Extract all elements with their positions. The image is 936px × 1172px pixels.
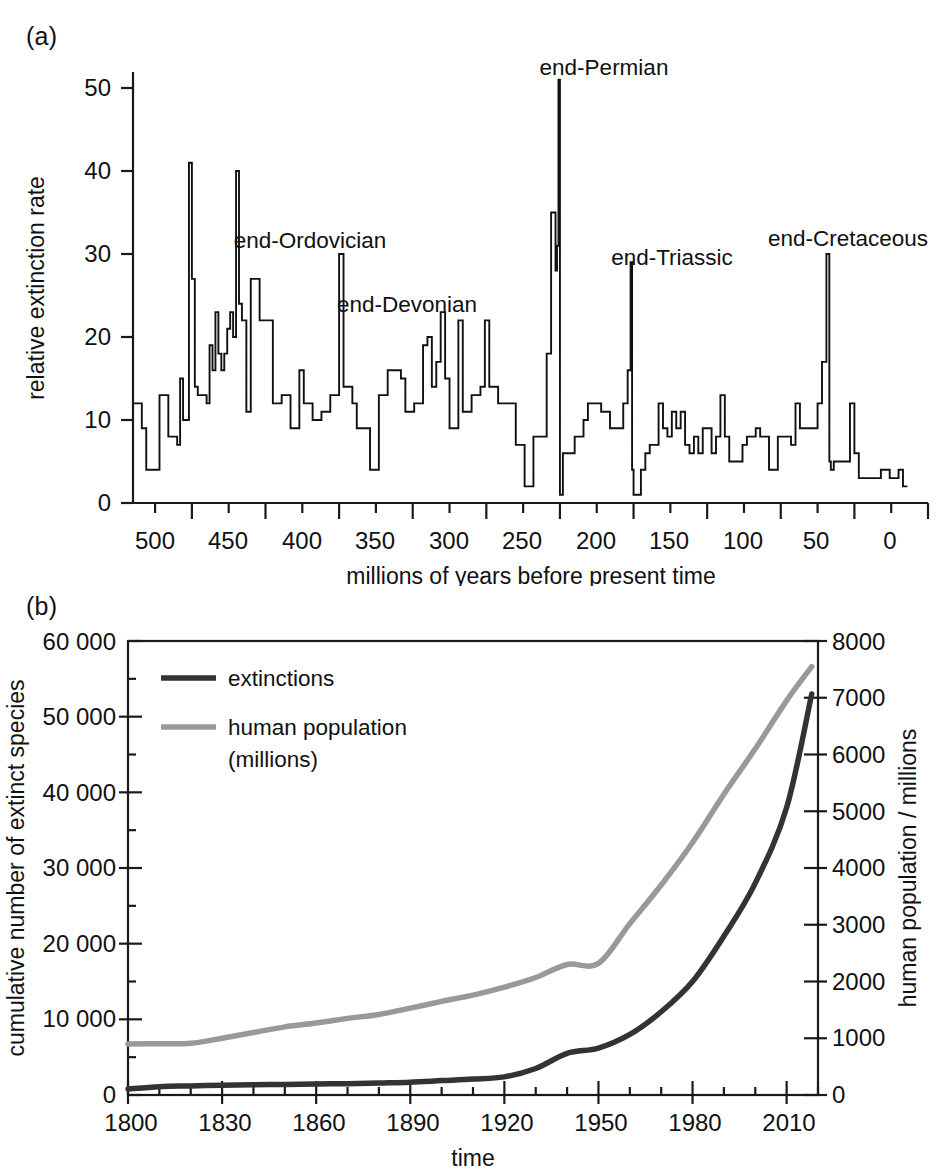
y-tick-label-left: 20 000 [43, 930, 116, 957]
y-tick-label-right: 4000 [832, 854, 885, 881]
panel-b-x-tick-labels: 1800 1830 1860 1890 1920 1950 1980 2010 [104, 1109, 815, 1136]
panel-b-y-axis-title-right: human population / millions [895, 729, 921, 1008]
panel-a-chart: 0 10 20 30 40 50 500 450 400 350 300 250… [0, 0, 936, 586]
panel-b-chart: 0 10 000 20 000 30 000 40 000 50 000 60 … [0, 586, 936, 1172]
y-tick-label: 10 [84, 406, 111, 433]
x-tick-label: 50 [803, 527, 830, 554]
y-tick-label: 30 [84, 240, 111, 267]
panel-b-left-y-ticks [119, 641, 142, 1095]
panel-a-axes [133, 72, 928, 503]
x-tick-label: 250 [502, 527, 542, 554]
x-tick-label: 200 [576, 527, 616, 554]
x-tick-label: 150 [649, 527, 689, 554]
y-tick-label: 20 [84, 323, 111, 350]
x-tick-label: 2010 [762, 1109, 815, 1136]
x-tick-label: 300 [429, 527, 469, 554]
y-tick-label: 0 [98, 489, 111, 516]
panel-b-right-y-tick-labels: 0 1000 2000 3000 4000 5000 6000 7000 800… [832, 628, 885, 1108]
x-tick-label: 350 [355, 527, 395, 554]
x-tick-label: 1860 [292, 1109, 345, 1136]
x-tick-label: 1920 [480, 1109, 533, 1136]
panel-b-y-axis-title-left: cumulative number of extinct species [3, 679, 29, 1056]
y-tick-label-right: 7000 [832, 684, 885, 711]
x-tick-label: 500 [135, 527, 175, 554]
y-tick-label-right: 1000 [832, 1024, 885, 1051]
y-tick-label-right: 8000 [832, 628, 885, 655]
y-tick-label-right: 6000 [832, 741, 885, 768]
x-tick-label: 1800 [104, 1109, 157, 1136]
panel-b-x-axis-title: time [451, 1145, 494, 1171]
x-tick-label: 1980 [668, 1109, 721, 1136]
x-tick-label: 1950 [574, 1109, 627, 1136]
y-tick-label-left: 40 000 [43, 779, 116, 806]
extinction-rate-curve [133, 80, 907, 495]
x-tick-label: 400 [282, 527, 322, 554]
panel-a-y-tick-labels: 0 10 20 30 40 50 [84, 74, 111, 516]
event-label-end-devonian: end-Devonian [337, 292, 477, 317]
y-tick-label: 40 [84, 157, 111, 184]
legend-label-human-population: human population [228, 715, 407, 740]
panel-a-x-tick-labels: 500 450 400 350 300 250 200 150 100 50 0 [135, 527, 897, 554]
y-tick-label-left: 10 000 [43, 1005, 116, 1032]
x-tick-label: 1890 [386, 1109, 439, 1136]
extinction-figure: (a) 0 10 20 30 40 50 500 450 40 [0, 0, 936, 1172]
event-label-end-ordovician: end-Ordovician [234, 228, 387, 253]
legend-label-human-population-units: (millions) [228, 747, 318, 772]
y-tick-label-right: 0 [832, 1081, 845, 1108]
panel-a-y-axis-title: relative extinction rate [23, 176, 49, 400]
event-label-end-permian: end-Permian [540, 55, 669, 80]
y-tick-label-left: 60 000 [43, 628, 116, 655]
x-tick-label: 450 [208, 527, 248, 554]
y-tick-label-right: 3000 [832, 911, 885, 938]
y-tick-label-left: 50 000 [43, 703, 116, 730]
panel-b-legend: extinctions human population (millions) [161, 666, 407, 772]
legend-label-extinctions: extinctions [228, 666, 334, 691]
x-tick-label: 1830 [198, 1109, 251, 1136]
x-tick-label: 100 [723, 527, 763, 554]
y-tick-label: 50 [84, 74, 111, 101]
panel-a-x-axis-title: millions of years before present time [346, 563, 715, 586]
x-tick-label: 0 [883, 527, 896, 554]
panel-a-x-ticks [155, 503, 928, 519]
panel-a-y-ticks [121, 88, 133, 503]
panel-b-left-y-tick-labels: 0 10 000 20 000 30 000 40 000 50 000 60 … [43, 628, 116, 1108]
y-tick-label-left: 0 [103, 1081, 116, 1108]
y-tick-label-left: 30 000 [43, 854, 116, 881]
event-label-end-triassic: end-Triassic [611, 245, 733, 270]
panel-b-plot-frame [128, 641, 818, 1095]
panel-a-event-labels: end-Ordovician end-Devonian end-Permian … [234, 55, 928, 317]
y-tick-label-right: 5000 [832, 798, 885, 825]
y-tick-label-right: 2000 [832, 968, 885, 995]
event-label-end-cretaceous: end-Cretaceous [768, 226, 928, 251]
